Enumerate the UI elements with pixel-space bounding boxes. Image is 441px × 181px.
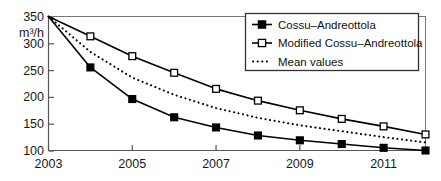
data-point-marker	[171, 114, 178, 121]
legend-item-label: Mean values	[278, 56, 343, 68]
legend-marker-sample	[258, 21, 265, 28]
y-tick-label: 250	[23, 64, 44, 78]
data-point-marker	[171, 69, 178, 76]
y-tick-label: 350	[23, 10, 44, 24]
y-tick-label: 100	[23, 144, 44, 158]
data-point-marker	[338, 141, 345, 148]
x-tick-label: 2003	[35, 157, 63, 171]
data-point-marker	[296, 107, 303, 114]
x-tick-label: 2011	[370, 157, 397, 171]
chart-figure: 100150200250300350 20032005200720092011 …	[0, 0, 441, 181]
data-point-marker	[255, 97, 262, 104]
data-point-marker	[380, 123, 387, 130]
data-point-marker	[87, 33, 94, 40]
data-point-marker	[87, 64, 94, 71]
legend-marker-sample	[258, 39, 265, 46]
data-point-marker	[422, 147, 429, 154]
data-point-marker	[255, 132, 262, 139]
data-point-marker	[213, 124, 220, 131]
x-tick-label: 2009	[286, 157, 314, 171]
legend-item-label: Modified Cossu–Andreottola	[278, 37, 423, 49]
y-axis-unit-label: m³/h	[19, 26, 44, 40]
line-chart: 100150200250300350 20032005200720092011 …	[0, 0, 441, 181]
x-tick-label: 2007	[202, 157, 230, 171]
data-point-marker	[338, 115, 345, 122]
data-point-marker	[129, 96, 136, 103]
x-tick-label: 2005	[118, 157, 146, 171]
data-point-marker	[129, 53, 136, 60]
legend-item-label: Cossu–Andreottola	[278, 19, 376, 31]
data-point-marker	[380, 144, 387, 151]
chart-legend: Cossu–AndreottolaModified Cossu–Andreott…	[246, 14, 424, 71]
data-point-marker	[296, 137, 303, 144]
data-point-marker	[213, 85, 220, 92]
y-tick-label: 150	[23, 117, 44, 131]
data-point-marker	[422, 131, 429, 138]
y-tick-label: 200	[23, 90, 44, 104]
